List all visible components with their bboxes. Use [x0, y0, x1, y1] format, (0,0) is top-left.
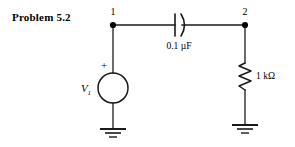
- source-polarity-plus: +: [101, 59, 107, 71]
- source-label-subscript: 1: [88, 89, 92, 97]
- node-dot-2: [242, 22, 248, 28]
- node-2: 2: [242, 6, 248, 28]
- node-2-label: 2: [243, 6, 248, 17]
- resistor-icon: [239, 63, 251, 90]
- node-dot-1: [110, 22, 116, 28]
- capacitor-label: 0.1 µF: [166, 41, 191, 51]
- resistor-label: 1 kΩ: [256, 71, 275, 81]
- page-title: Problem 5.2: [12, 11, 71, 23]
- source-circle: [98, 73, 128, 103]
- circuit-figure: Problem 5.2 1 2: [0, 0, 295, 147]
- node-1-label: 1: [111, 6, 116, 17]
- node-1: 1: [110, 6, 116, 28]
- ground-icon-left: [100, 129, 126, 137]
- ground-icon-right: [232, 125, 258, 133]
- source-label: V1: [81, 82, 91, 97]
- voltage-source-icon: [98, 73, 128, 103]
- resistor-zigzag: [239, 63, 251, 90]
